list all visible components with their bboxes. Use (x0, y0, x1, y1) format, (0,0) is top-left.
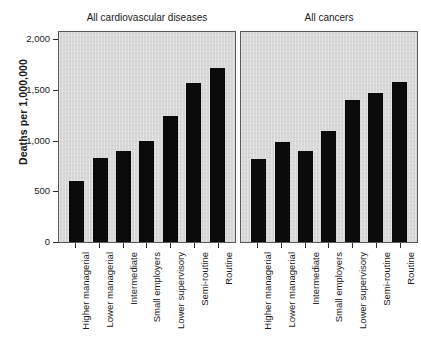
y-axis-title: Deaths per 1,000,000 (17, 27, 29, 197)
x-axis-label-slot: Semi-routine (187, 252, 202, 348)
x-axis-label: Higher managerial (262, 252, 273, 330)
bar (368, 93, 383, 242)
x-axis-tick-mark (139, 243, 154, 249)
panel-title-cardiovascular: All cardiovascular diseases (59, 12, 235, 23)
x-axis-tick-mark (250, 243, 265, 249)
x-axis-label: Lower managerial (286, 252, 297, 328)
bar (139, 141, 154, 243)
x-axis-tick-mark (345, 243, 360, 249)
x-axis-label-slot: Lower supervisory (345, 252, 360, 348)
x-axis-label: Lower managerial (104, 252, 115, 328)
x-axis-tick-mark (369, 243, 384, 249)
bar-group-cardiovascular (59, 32, 235, 242)
bar (163, 116, 178, 242)
panel-title-cancers: All cancers (241, 12, 417, 23)
panel-cardiovascular: All cardiovascular diseases (58, 31, 236, 243)
y-axis-tick-label: 500 (8, 186, 50, 196)
x-axis-label-slot: Small employers (139, 252, 154, 348)
x-axis-tick-mark (187, 243, 202, 249)
x-axis-tick-mark (211, 243, 226, 249)
x-axis-label-slot: Higher managerial (250, 252, 265, 348)
x-axis-label: Intermediate (310, 252, 321, 305)
x-axis-label-slot: Routine (393, 252, 408, 348)
x-axis-label-slot: Lower managerial (274, 252, 289, 348)
x-axis-label: Small employers (333, 252, 344, 322)
x-axis-label-slot: Higher managerial (68, 252, 83, 348)
x-axis-label: Semi-routine (381, 252, 392, 306)
x-axis-label: Small employers (151, 252, 162, 322)
x-axis-label: Routine (405, 252, 416, 285)
bar (298, 151, 313, 242)
x-axis-tick-mark (393, 243, 408, 249)
x-axis-label-slot: Small employers (321, 252, 336, 348)
bar (186, 83, 201, 242)
y-axis-tick-label: 2,000 (8, 34, 50, 44)
x-axis-tick-mark (274, 243, 289, 249)
x-axis-label: Lower supervisory (357, 252, 368, 329)
x-axis-label: Intermediate (128, 252, 139, 305)
y-axis-tick-label: 1,000 (8, 136, 50, 146)
bar (116, 151, 131, 242)
x-axis-labels-cardiovascular: Higher managerialLower managerialInterme… (58, 252, 236, 348)
x-axis-ticks-cancers (240, 243, 418, 249)
x-axis-label-slot: Lower managerial (92, 252, 107, 348)
x-axis-label: Higher managerial (80, 252, 91, 330)
x-axis-label-slot: Intermediate (116, 252, 131, 348)
bar (251, 159, 266, 242)
bar (210, 68, 225, 242)
x-axis-tick-mark (116, 243, 131, 249)
x-axis-label: Routine (223, 252, 234, 285)
x-axis-labels-cancers: Higher managerialLower managerialInterme… (240, 252, 418, 348)
bar (93, 158, 108, 242)
x-axis-tick-mark (92, 243, 107, 249)
x-axis-label: Lower supervisory (175, 252, 186, 329)
x-axis-label: Semi-routine (199, 252, 210, 306)
bar (392, 82, 407, 242)
x-axis-tick-mark (68, 243, 83, 249)
x-axis-tick-mark (298, 243, 313, 249)
bar (345, 100, 360, 242)
bar (69, 181, 84, 242)
x-axis-label-slot: Routine (211, 252, 226, 348)
bar (321, 131, 336, 242)
figure: Deaths per 1,000,000 05001,0001,5002,000… (0, 0, 421, 352)
x-axis-tick-mark (163, 243, 178, 249)
y-axis-tick-label: 1,500 (8, 85, 50, 95)
x-axis-ticks-cardiovascular (58, 243, 236, 249)
x-axis-label-slot: Semi-routine (369, 252, 384, 348)
x-axis-label-slot: Intermediate (298, 252, 313, 348)
x-axis-label-slot: Lower supervisory (163, 252, 178, 348)
bar-group-cancers (241, 32, 417, 242)
bar (275, 142, 290, 242)
x-axis-tick-mark (321, 243, 336, 249)
panel-cancers: All cancers (240, 31, 418, 243)
y-axis-tick-label: 0 (8, 237, 50, 247)
